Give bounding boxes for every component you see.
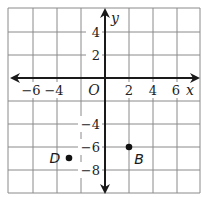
- x-tick-label: −4: [44, 83, 63, 98]
- coordinate-plane: −6 −4 2 4 6 4 2 −4 −6 −8 O x y D B: [0, 0, 202, 197]
- y-tick-label: 4: [92, 25, 100, 40]
- point-b-label: B: [134, 151, 144, 167]
- x-tick-label: 4: [149, 83, 157, 98]
- x-tick-label: 6: [172, 83, 180, 98]
- y-axis-label: y: [110, 10, 120, 26]
- y-tick-label: −6: [81, 140, 100, 155]
- y-tick-label: −8: [81, 163, 100, 178]
- point-d-marker: [66, 155, 73, 162]
- point-d: D: [50, 150, 73, 166]
- x-tick-label: −6: [21, 83, 40, 98]
- point-b-marker: [126, 144, 133, 151]
- y-tick-label: −4: [81, 117, 100, 132]
- origin-label: O: [88, 82, 100, 98]
- x-axis-label: x: [186, 82, 194, 98]
- x-tick-label: 2: [125, 83, 133, 98]
- y-tick-label: 2: [92, 48, 100, 63]
- point-d-label: D: [50, 150, 61, 166]
